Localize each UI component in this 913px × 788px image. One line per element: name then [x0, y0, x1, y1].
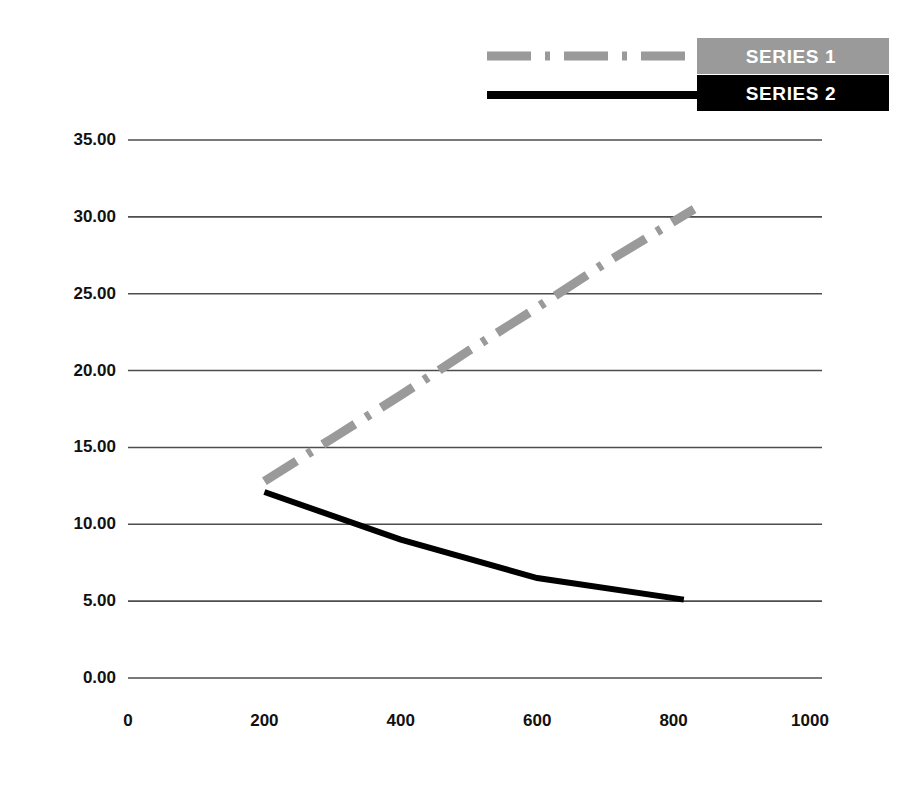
y-axis-tick-label: 35.00 — [20, 131, 116, 148]
y-axis-tick-label: 25.00 — [20, 285, 116, 302]
y-axis-tick-label: 10.00 — [20, 515, 116, 532]
y-axis-tick-label: 5.00 — [20, 592, 116, 609]
y-axis-tick-label: 15.00 — [20, 438, 116, 455]
x-axis-tick-label: 400 — [361, 712, 441, 729]
y-axis-tick-label: 30.00 — [20, 208, 116, 225]
x-axis-tick-label: 800 — [634, 712, 714, 729]
gridlines — [128, 140, 822, 678]
plot-area: 0.005.0010.0015.0020.0025.0030.0035.00 0… — [0, 0, 913, 788]
x-axis-tick-label: 0 — [88, 712, 168, 729]
x-axis-tick-label: 600 — [497, 712, 577, 729]
x-axis-tick-label: 200 — [224, 712, 304, 729]
series-lines — [264, 209, 694, 599]
y-axis-tick-label: 20.00 — [20, 362, 116, 379]
x-axis-tick-label: 1000 — [770, 712, 850, 729]
series-line-2 — [264, 492, 683, 600]
plot-canvas — [0, 0, 913, 788]
y-axis-tick-label: 0.00 — [20, 669, 116, 686]
chart-figure: SERIES 1 SERIES 2 0.005.0010.0015.0020.0… — [0, 0, 913, 788]
series-line-1 — [264, 209, 694, 481]
